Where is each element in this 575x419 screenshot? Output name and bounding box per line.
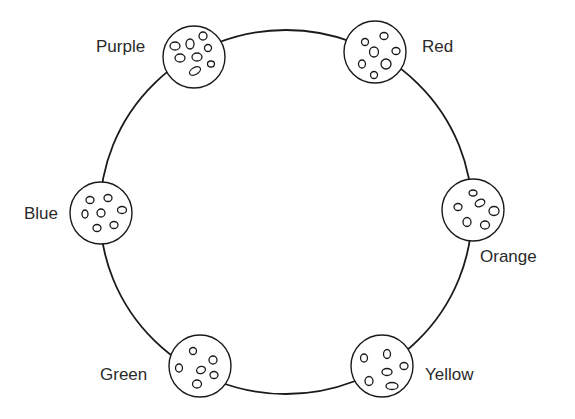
dish-blue-label: Blue <box>24 204 58 223</box>
seed <box>469 190 477 196</box>
seed <box>82 210 88 218</box>
seed <box>362 39 369 46</box>
dish-blue: Blue <box>24 182 132 244</box>
dish-purple-label: Purple <box>96 37 145 56</box>
dish-red: Red <box>344 21 453 83</box>
seed <box>208 61 215 67</box>
dish-orange: Orange <box>442 179 537 266</box>
seed <box>175 54 185 62</box>
seed <box>359 60 366 68</box>
seed <box>392 48 400 55</box>
seed <box>209 356 217 364</box>
seed <box>384 350 391 359</box>
dish-orange-label: Orange <box>480 247 537 266</box>
dish-green-label: Green <box>100 365 147 384</box>
connecting-ring <box>100 30 472 394</box>
seed <box>380 33 388 40</box>
seed <box>97 209 105 217</box>
dish-red-label: Red <box>422 37 453 56</box>
seed <box>190 348 197 355</box>
seed-dish-circle-diagram: Purple Red Orange <box>0 0 575 419</box>
seed <box>176 364 183 372</box>
seed <box>118 207 127 214</box>
seed <box>481 221 490 229</box>
seed <box>386 383 398 390</box>
seed <box>361 354 368 362</box>
seed <box>199 32 207 40</box>
seed <box>365 377 373 386</box>
seed <box>381 59 391 69</box>
seed <box>463 218 471 227</box>
seed <box>400 363 408 370</box>
dish-yellow-label: Yellow <box>425 365 474 384</box>
seed <box>170 42 180 50</box>
seed <box>454 204 462 211</box>
seed <box>205 45 212 52</box>
seed <box>371 72 378 79</box>
seed <box>489 207 499 216</box>
seed <box>193 380 202 388</box>
seed <box>104 195 112 202</box>
seed <box>186 39 194 49</box>
seed <box>93 225 101 232</box>
seed <box>86 197 94 204</box>
dish-green: Green <box>100 335 231 397</box>
seed <box>110 222 118 229</box>
seed <box>210 372 218 379</box>
seed <box>370 47 379 57</box>
seed <box>192 53 202 61</box>
seed <box>382 369 392 376</box>
